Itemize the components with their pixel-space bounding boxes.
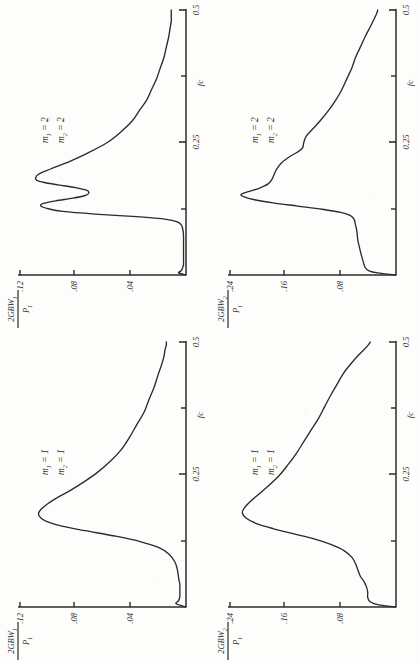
param-label-m1: m1 = 1 xyxy=(40,449,52,475)
y-tick-label-3: .12 xyxy=(15,612,25,623)
param-label-m2: m2 = 2 xyxy=(56,117,68,143)
plot-bottom-right: 0.25 0.5 fc .08 .16 .24 2GBW2 P1 m1 = 1 xyxy=(210,332,419,663)
y-axis-label-numerator: 2GBW1 xyxy=(6,296,18,322)
x-axis-label: fc xyxy=(195,412,205,419)
y-tick-label-2: .08 xyxy=(69,280,79,291)
figure-panel-top-right: 0.25 0.5 fc .08 .16 .24 2GBW2 P1 m1 = 2 xyxy=(210,0,419,331)
rotated-plot-frame: 0.25 0.5 fc .04 .08 .12 2GBW1 P1 m1 = 1 xyxy=(0,332,209,663)
y-axis-label: 2GBW2 P1 xyxy=(216,622,243,660)
param-label-m2: m2 = 1 xyxy=(56,449,68,475)
y-tick-label-2: .16 xyxy=(279,612,289,623)
x-tick-label-0-25: 0.25 xyxy=(401,467,411,482)
y-tick-label-3: .12 xyxy=(15,280,25,291)
param-label-m1: m1 = 1 xyxy=(250,449,262,475)
figure-panel-bottom-right: 0.25 0.5 fc .08 .16 .24 2GBW2 P1 m1 = 1 xyxy=(210,332,419,663)
scanned-page: 0.25 0.5 fc .04 .08 .12 2GBW1 P1 xyxy=(0,0,419,663)
x-tick-label-0-5: 0.5 xyxy=(191,337,201,348)
y-tick-label-3: .24 xyxy=(225,280,235,291)
y-tick-label-2: .08 xyxy=(69,612,79,623)
x-axis-label: fc xyxy=(405,80,415,87)
y-tick-label-1: .08 xyxy=(335,612,345,623)
plot-top-left: 0.25 0.5 fc .04 .08 .12 2GBW1 P1 xyxy=(0,0,209,331)
y-axis-label: 2GBW1 P1 xyxy=(6,622,33,660)
data-curve xyxy=(241,10,396,275)
x-tick-label-0-5: 0.5 xyxy=(191,5,201,16)
y-axis-label-numerator: 2GBW2 xyxy=(216,296,228,322)
y-axis-label-denominator: P1 xyxy=(21,637,33,646)
plot-bottom-left: 0.25 0.5 fc .04 .08 .12 2GBW1 P1 m1 = 1 xyxy=(0,332,209,663)
y-axis-label-numerator: 2GBW1 xyxy=(6,628,18,654)
y-tick-label-2: .16 xyxy=(279,280,289,291)
x-tick-label-0-5: 0.5 xyxy=(401,337,411,348)
plot-top-right: 0.25 0.5 fc .08 .16 .24 2GBW2 P1 m1 = 2 xyxy=(210,0,419,331)
y-tick-label-3: .24 xyxy=(225,612,235,623)
x-axis-label: fc xyxy=(195,80,205,87)
y-axis-label: 2GBW2 P1 xyxy=(216,290,243,328)
x-tick-label-0-25: 0.25 xyxy=(191,467,201,482)
y-tick-label-1: .04 xyxy=(125,612,135,623)
y-tick-label-1: .08 xyxy=(335,280,345,291)
rotated-plot-frame: 0.25 0.5 fc .08 .16 .24 2GBW2 P1 m1 = 1 xyxy=(210,332,419,663)
param-label-m2: m2 = 1 xyxy=(266,449,278,475)
y-tick-label-1: .04 xyxy=(125,280,135,291)
x-tick-label-0-5: 0.5 xyxy=(401,5,411,16)
y-axis-label-numerator: 2GBW2 xyxy=(216,628,228,654)
x-axis-label: fc xyxy=(405,412,415,419)
param-label-m1: m1 = 2 xyxy=(40,117,52,143)
param-label-m1: m1 = 2 xyxy=(250,117,262,143)
figure-panel-bottom-left: 0.25 0.5 fc .04 .08 .12 2GBW1 P1 m1 = 1 xyxy=(0,332,209,663)
x-tick-label-0-25: 0.25 xyxy=(401,135,411,150)
param-label-m2: m2 = 2 xyxy=(266,117,278,143)
y-axis-label: 2GBW1 P1 xyxy=(6,290,33,328)
y-axis-label-denominator: P1 xyxy=(231,637,243,646)
rotated-plot-frame: 0.25 0.5 fc .04 .08 .12 2GBW1 P1 xyxy=(0,0,209,331)
rotated-plot-frame: 0.25 0.5 fc .08 .16 .24 2GBW2 P1 m1 = 2 xyxy=(210,0,419,331)
figure-panel-top-left: 0.25 0.5 fc .04 .08 .12 2GBW1 P1 xyxy=(0,0,209,331)
x-tick-label-0-25: 0.25 xyxy=(191,135,201,150)
y-axis-label-denominator: P1 xyxy=(21,305,33,314)
y-axis-label-denominator: P1 xyxy=(231,305,243,314)
